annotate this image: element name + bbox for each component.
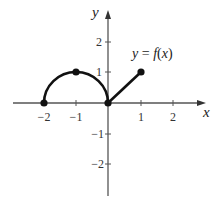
- x-tick-label: 2: [170, 110, 176, 124]
- x-tick-label: 1: [138, 110, 144, 124]
- y-axis-arrow-icon: [105, 10, 111, 19]
- function-label: y = f(x): [130, 46, 173, 62]
- line-segment: [108, 72, 141, 103]
- point-neg1-1: [72, 68, 79, 75]
- x-tick-label: −1: [70, 110, 83, 124]
- point-origin: [104, 99, 111, 106]
- y-axis-label: y: [90, 4, 99, 20]
- y-tick-label: −2: [91, 157, 104, 171]
- y-tick-label: 1: [96, 65, 102, 79]
- plot-canvas: −2 −1 1 2 2 1 −1 −2 x y y = f(x): [0, 0, 219, 202]
- y-tick-label: −1: [91, 127, 104, 141]
- function-graph: −2 −1 1 2 2 1 −1 −2 x y y = f(x): [0, 0, 219, 202]
- point-1-1: [137, 68, 144, 75]
- x-axis-label: x: [202, 104, 210, 120]
- x-tick-label: −2: [38, 110, 51, 124]
- y-tick-label: 2: [96, 35, 102, 49]
- point-neg2-0: [40, 99, 47, 106]
